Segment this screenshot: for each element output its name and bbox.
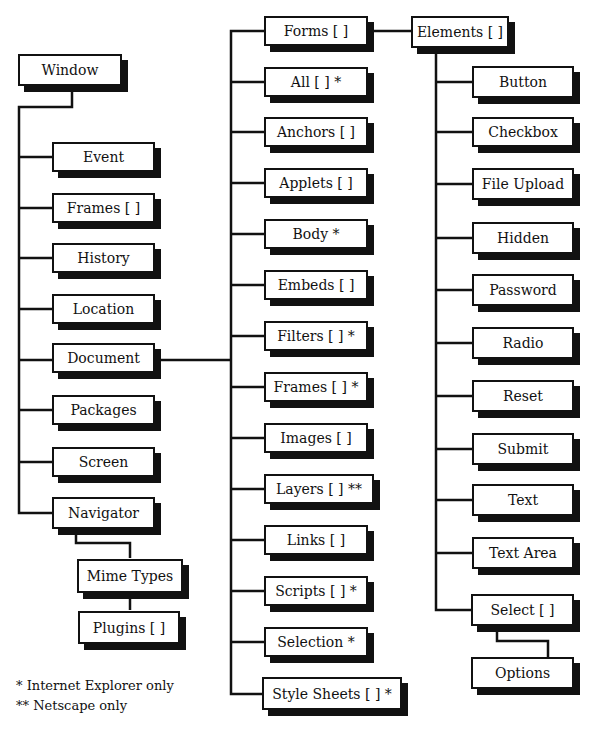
node-select: Select [ ] xyxy=(471,594,574,626)
node-label: Elements [ ] xyxy=(417,24,503,40)
node-forms: Forms [ ] xyxy=(264,16,368,46)
node-embeds: Embeds [ ] xyxy=(264,270,368,300)
node-label: All [ ] * xyxy=(291,74,341,90)
object-hierarchy-diagram: Window Event Frames [ ] History Location… xyxy=(0,0,594,734)
node-label: Text xyxy=(508,492,538,508)
node-filters: Filters [ ] * xyxy=(264,321,368,351)
node-layers: Layers [ ] ** xyxy=(264,474,374,504)
node-applets: Applets [ ] xyxy=(264,168,368,198)
node-label: Select [ ] xyxy=(491,602,555,618)
legend-ie-only: * Internet Explorer only xyxy=(16,678,174,693)
node-all: All [ ] * xyxy=(264,67,368,97)
node-label: Filters [ ] * xyxy=(277,328,355,344)
node-text-area: Text Area xyxy=(472,537,574,569)
node-plugins: Plugins [ ] xyxy=(78,611,180,644)
node-label: Mime Types xyxy=(87,568,174,584)
node-hidden: Hidden xyxy=(472,222,574,254)
node-label: Checkbox xyxy=(488,124,558,140)
node-frames: Frames [ ] xyxy=(52,193,155,223)
node-label: Reset xyxy=(503,388,543,404)
node-submit: Submit xyxy=(472,433,574,465)
node-label: History xyxy=(77,250,130,266)
node-label: Password xyxy=(489,282,557,298)
node-body: Body * xyxy=(264,219,368,249)
node-label: File Upload xyxy=(482,176,564,192)
node-doc-frames: Frames [ ] * xyxy=(264,372,368,402)
node-label: Submit xyxy=(498,441,549,457)
node-document: Document xyxy=(52,343,155,373)
node-anchors: Anchors [ ] xyxy=(264,117,368,147)
node-options: Options xyxy=(471,657,574,689)
node-label: Frames [ ] * xyxy=(274,379,359,395)
node-label: Options xyxy=(495,665,550,681)
node-radio: Radio xyxy=(472,327,574,359)
node-screen: Screen xyxy=(52,447,155,477)
node-label: Style Sheets [ ] * xyxy=(272,686,392,702)
node-reset: Reset xyxy=(472,380,574,412)
node-label: Navigator xyxy=(68,505,139,521)
node-label: Radio xyxy=(502,335,543,351)
node-label: Applets [ ] xyxy=(279,175,352,191)
legend-netscape-only: ** Netscape only xyxy=(16,698,127,713)
node-label: Body * xyxy=(292,226,339,242)
node-label: Hidden xyxy=(497,230,549,246)
node-window: Window xyxy=(18,54,122,86)
node-label: Location xyxy=(73,301,134,317)
node-packages: Packages xyxy=(52,395,155,425)
node-button: Button xyxy=(472,66,574,98)
node-label: Text Area xyxy=(489,545,557,561)
node-label: Links [ ] xyxy=(287,532,345,548)
node-label: Selection * xyxy=(277,634,354,650)
node-label: Frames [ ] xyxy=(67,200,140,216)
node-navigator: Navigator xyxy=(52,497,155,529)
node-scripts: Scripts [ ] * xyxy=(264,576,368,606)
node-label: Document xyxy=(67,350,140,366)
node-label: Forms [ ] xyxy=(284,23,348,39)
node-label: Event xyxy=(83,149,124,165)
node-label: Button xyxy=(499,74,547,90)
node-password: Password xyxy=(472,274,574,306)
node-label: Anchors [ ] xyxy=(277,124,355,140)
node-label: Layers [ ] ** xyxy=(276,481,362,497)
node-label: Images [ ] xyxy=(280,430,351,446)
node-label: Packages xyxy=(70,402,136,418)
node-label: Window xyxy=(41,62,98,78)
node-images: Images [ ] xyxy=(264,423,368,453)
node-file-upload: File Upload xyxy=(472,168,574,200)
node-label: Screen xyxy=(79,454,129,470)
node-label: Scripts [ ] * xyxy=(275,583,357,599)
node-checkbox: Checkbox xyxy=(472,117,574,147)
node-selection: Selection * xyxy=(264,627,368,657)
node-style-sheets: Style Sheets [ ] * xyxy=(262,677,402,710)
node-history: History xyxy=(52,243,155,273)
node-links: Links [ ] xyxy=(264,525,368,555)
node-mime-types: Mime Types xyxy=(77,559,183,593)
node-label: Plugins [ ] xyxy=(93,620,165,636)
node-label: Embeds [ ] xyxy=(278,277,355,293)
node-text: Text xyxy=(472,484,574,516)
node-location: Location xyxy=(52,294,155,324)
node-elements: Elements [ ] xyxy=(411,16,509,48)
node-event: Event xyxy=(52,142,155,172)
